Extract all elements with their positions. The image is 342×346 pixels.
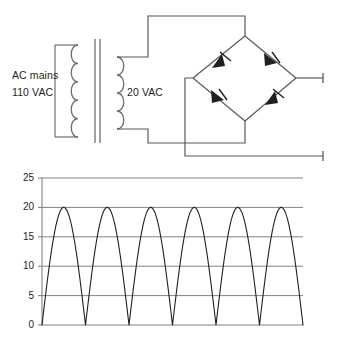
y-tick-label-5: 5 — [12, 290, 34, 301]
y-tick-label-25: 25 — [12, 172, 34, 183]
label-ac-mains: AC mains — [12, 69, 58, 81]
negative-output-wire — [185, 78, 323, 156]
bridge-rectifier-outline — [193, 36, 296, 121]
chart-canvas — [0, 165, 342, 346]
diode-bottom-right-icon — [265, 89, 284, 105]
label-primary-voltage: 110 VAC — [12, 86, 53, 98]
y-tick-label-15: 15 — [12, 231, 34, 242]
transformer-primary-winding — [71, 45, 78, 137]
y-tick-label-10: 10 — [12, 260, 34, 271]
rectifier-figure: AC mains 110 VAC 20 VAC 0510152025 — [0, 0, 342, 346]
secondary-output-wires — [117, 16, 245, 143]
transformer-secondary-winding — [117, 57, 124, 129]
transformer-primary-leads — [55, 45, 78, 137]
output-waveform-chart: 0510152025 — [0, 165, 342, 346]
diode-bottom-left-icon — [211, 89, 227, 103]
label-secondary-voltage: 20 VAC — [127, 86, 163, 98]
chart-y-axis — [38, 178, 42, 325]
transformer-core — [95, 39, 100, 143]
y-tick-label-20: 20 — [12, 201, 34, 212]
chart-gridlines — [42, 178, 303, 325]
circuit-diagram — [0, 0, 342, 170]
y-tick-label-0: 0 — [12, 319, 34, 330]
